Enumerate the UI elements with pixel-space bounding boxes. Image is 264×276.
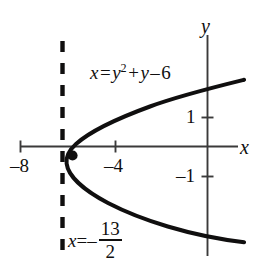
equation-label: x=y2+y–6 — [90, 62, 171, 82]
y-axis-label: y — [201, 16, 210, 36]
equation-plus-sign: + — [127, 62, 141, 83]
x-tick-label-neg4: –4 — [104, 156, 123, 175]
directrix-fraction-denominator: 2 — [103, 242, 117, 261]
directrix-label: x=– 13 2 — [68, 219, 122, 261]
directrix-fraction-numerator: 13 — [99, 219, 122, 238]
directrix-fraction: 13 2 — [99, 219, 122, 261]
x-tick-label-neg8: –8 — [10, 156, 29, 175]
y-tick-label-neg1: –1 — [176, 166, 195, 185]
equation-term2-variable: y — [140, 62, 148, 83]
directrix-minus-sign: – — [87, 231, 97, 250]
equation-constant: 6 — [161, 62, 171, 83]
equation-equals-sign: = — [98, 62, 112, 83]
y-tick-label-pos1: 1 — [186, 107, 196, 126]
parabola-figure: y x –8 –4 1 –1 x=y2+y–6 x=– 13 2 — [0, 0, 264, 276]
equation-minus-sign: – — [149, 62, 162, 83]
x-axis-label: x — [240, 137, 249, 157]
parabola-curve — [66, 80, 244, 242]
directrix-lhs-variable: x — [68, 231, 76, 250]
equation-term1-variable: y — [112, 62, 120, 83]
vertex-point-marker — [67, 150, 77, 160]
equation-term1-exponent: 2 — [121, 61, 127, 75]
directrix-equals-sign: = — [76, 231, 87, 250]
plot-canvas — [0, 0, 264, 276]
